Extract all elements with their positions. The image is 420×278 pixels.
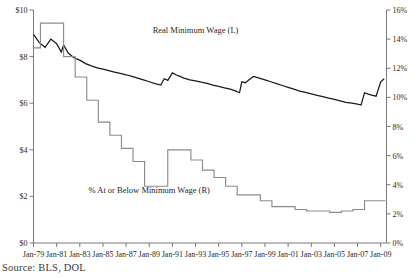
- right-axis-tick-label: 16%: [393, 6, 408, 15]
- right-axis-tick-label: 6%: [393, 152, 404, 161]
- left-axis-tick-label: $10: [16, 6, 28, 15]
- x-axis-tick-label: Jan-09: [370, 250, 391, 259]
- x-axis-tick-label: Jan-05: [324, 250, 345, 259]
- series-annotation-real-minimum-wage: Real Minimum Wage (L): [153, 25, 239, 35]
- right-axis-tick-label: 0%: [393, 239, 404, 248]
- x-axis-tick-label: Jan-97: [231, 250, 252, 259]
- series-line-pct-at-or-below: [34, 23, 386, 212]
- chart-canvas: $0$2$4$6$8$100%2%4%6%8%10%12%14%16%Jan-7…: [0, 0, 420, 278]
- right-axis-tick-label: 2%: [393, 210, 404, 219]
- x-axis-tick-label: Jan-83: [69, 250, 90, 259]
- x-axis-tick-label: Jan-03: [301, 250, 322, 259]
- series-line-real-minimum-wage: [34, 34, 385, 105]
- x-axis-tick-label: Jan-87: [115, 250, 136, 259]
- left-axis-tick-label: $6: [20, 99, 28, 108]
- right-axis-tick-label: 8%: [393, 123, 404, 132]
- x-axis-tick-label: Jan-91: [162, 250, 183, 259]
- right-axis-tick-label: 12%: [393, 64, 408, 73]
- x-axis-tick-label: Jan-79: [23, 250, 44, 259]
- left-axis-tick-label: $0: [20, 239, 28, 248]
- x-axis-tick-label: Jan-81: [46, 250, 67, 259]
- right-axis-tick-label: 10%: [393, 93, 408, 102]
- left-axis-tick-label: $2: [20, 192, 28, 201]
- x-axis-tick-label: Jan-01: [277, 250, 298, 259]
- x-axis-tick-label: Jan-85: [92, 250, 113, 259]
- left-axis-tick-label: $8: [20, 53, 28, 62]
- right-axis-tick-label: 14%: [393, 35, 408, 44]
- left-axis-tick-label: $4: [20, 146, 28, 155]
- x-axis-tick-label: Jan-95: [208, 250, 229, 259]
- source-note: Source: BLS, DOL: [2, 262, 86, 273]
- x-axis-tick-label: Jan-93: [185, 250, 206, 259]
- x-axis-tick-label: Jan-89: [139, 250, 160, 259]
- series-annotation-pct-at-or-below: % At or Below Minimum Wage (R): [89, 185, 211, 195]
- chart-container: $0$2$4$6$8$100%2%4%6%8%10%12%14%16%Jan-7…: [0, 0, 420, 278]
- right-axis-tick-label: 4%: [393, 181, 404, 190]
- x-axis-tick-label: Jan-99: [254, 250, 275, 259]
- x-axis-tick-label: Jan-07: [347, 250, 368, 259]
